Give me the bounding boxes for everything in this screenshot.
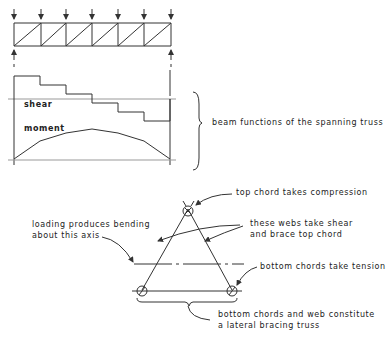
reaction-arrows	[14, 50, 171, 67]
truss-cross-section	[132, 201, 244, 296]
spanning-truss	[14, 23, 171, 46]
leader-lateral	[188, 306, 210, 320]
leader-axis	[102, 237, 133, 262]
loading-label-line2: about this axis	[32, 231, 100, 241]
leader-web-right	[205, 226, 243, 241]
moment-label: moment	[24, 124, 65, 134]
beam-functions-label: beam functions of the spanning truss	[212, 118, 383, 128]
lateral-label-line2: a lateral bracing truss	[218, 321, 320, 331]
shear-label: shear	[24, 100, 52, 110]
leader-bottom-chord	[237, 267, 257, 285]
top-chord-label: top chord takes compression	[236, 188, 368, 198]
lateral-bracing-brace	[137, 298, 237, 306]
leader-web-left	[158, 225, 240, 241]
webs-label-line1: these webs take shear	[250, 219, 353, 229]
shear-diagram	[8, 70, 176, 165]
loading-label-line1: loading produces bending	[32, 220, 150, 230]
leader-top-chord	[196, 194, 232, 205]
beam-functions-brace	[193, 92, 202, 170]
webs-label-line2: and brace top chord	[250, 230, 342, 240]
bottom-chords-label: bottom chords take tension	[260, 262, 386, 272]
load-arrows	[14, 9, 171, 19]
lateral-label-line1: bottom chords and web constitute	[218, 310, 375, 320]
